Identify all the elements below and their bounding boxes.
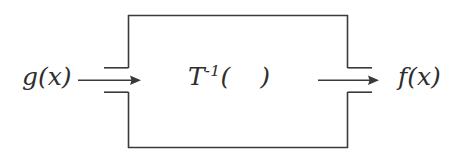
block-operator-label: T-1() [188, 64, 270, 89]
operator-exponent: -1 [205, 62, 221, 80]
operator-symbol: T [188, 62, 205, 91]
operator-close-paren: ) [260, 62, 270, 91]
block-diagram: g(x) T-1() f(x) [0, 0, 473, 158]
output-signal-label: f(x) [398, 64, 441, 89]
input-signal-label: g(x) [22, 64, 72, 89]
output-arrow-head [368, 75, 379, 85]
input-arrow-head [130, 75, 141, 85]
operator-open-paren: ( [220, 62, 230, 91]
